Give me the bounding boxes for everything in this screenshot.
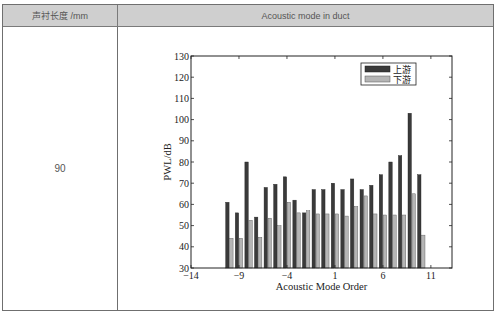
header-liner-length: 声衬长度 /mm <box>3 5 118 27</box>
header-acoustic-mode: Acoustic mode in duct <box>118 5 493 27</box>
cell-liner-length: 90 <box>3 27 118 310</box>
data-table: 声衬长度 /mm Acoustic mode in duct 90 <box>2 4 494 311</box>
